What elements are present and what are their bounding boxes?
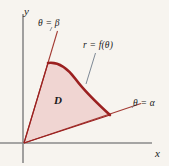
- ray-alpha-label: θ = α: [133, 99, 155, 109]
- figure-canvas: [0, 0, 169, 166]
- y-axis-label: y: [24, 6, 29, 17]
- polar-curve-label: r = f(θ): [83, 41, 113, 51]
- x-axis-label: x: [155, 148, 160, 159]
- curve-label-leader-line: [86, 53, 96, 84]
- region-d-label: D: [54, 95, 62, 106]
- polar-region-figure: y x θ = β θ = α r = f(θ) D: [0, 0, 169, 166]
- ray-beta-label: θ = β: [38, 19, 60, 29]
